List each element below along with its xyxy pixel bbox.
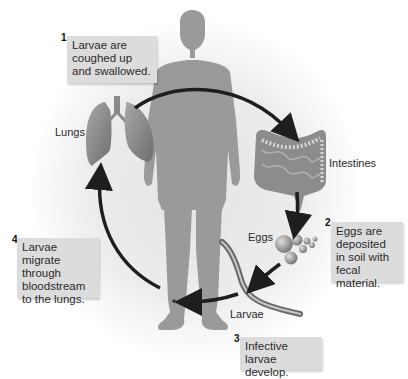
hookworm-life-cycle-diagram: Lungs Intestines Eggs Larvae 1 Larvae ar… [0,0,408,379]
step-3-callout: Infective larvae develop. [240,337,322,370]
step-2-number: 2 [325,217,331,228]
lungs-illustration [86,96,154,166]
diagram-artwork [0,0,408,379]
arrow-eggs-to-larvae [256,264,280,284]
step-2-callout: Eggs are deposited in soil with fecal ma… [331,222,403,282]
human-silhouette [144,10,240,330]
label-larvae: Larvae [230,308,264,320]
step-1-number: 1 [61,32,67,43]
label-intestines: Intestines [329,157,376,169]
label-lungs: Lungs [55,126,85,138]
arrow-blood-to-lungs [100,176,160,288]
intestines-illustration [254,130,326,212]
arrow-intestines-to-eggs [296,192,298,226]
step-3-number: 3 [234,333,240,344]
eggs-illustration [275,235,318,265]
label-eggs: Eggs [248,231,273,243]
step-4-callout: Larvae migrate through bloodstream to th… [17,238,99,298]
skin-entry-point [172,299,176,303]
step-1-callout: Larvae are coughed up and swallowed. [67,36,157,83]
